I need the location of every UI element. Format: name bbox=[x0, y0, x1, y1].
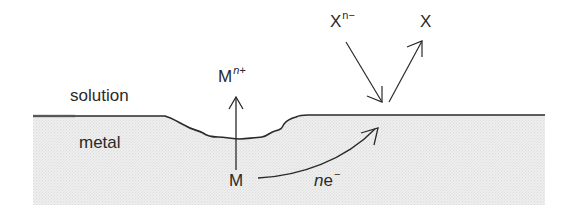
oxidant-incoming-arrow bbox=[346, 42, 382, 102]
electron-symbol: e bbox=[323, 171, 332, 190]
oxidant-base: X bbox=[330, 12, 341, 31]
metal-region bbox=[33, 115, 545, 205]
electrons-label: ne− bbox=[314, 172, 340, 189]
electron-charge: − bbox=[334, 168, 340, 180]
product-label: X bbox=[420, 13, 431, 30]
metal-ion-label: Mn+ bbox=[218, 68, 246, 85]
metal-ion-charge: n+ bbox=[233, 64, 246, 76]
solution-label: solution bbox=[70, 87, 129, 104]
metal-atom-label: M bbox=[229, 172, 243, 189]
oxidant-charge: n− bbox=[342, 9, 355, 21]
metal-ion-base: M bbox=[218, 67, 232, 86]
corrosion-diagram bbox=[0, 0, 573, 213]
product-outgoing-arrow bbox=[389, 41, 422, 102]
metal-label: metal bbox=[79, 134, 121, 151]
oxidant-label: Xn− bbox=[330, 13, 355, 30]
